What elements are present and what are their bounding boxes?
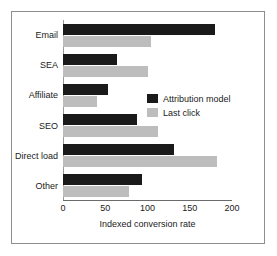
bar-other-last-click [63,186,129,197]
bar-affiliate-last-click [63,96,97,107]
legend-item-last-click: Last click [147,106,243,119]
bar-email-attribution-model [63,24,215,35]
x-axis-tick-labels: 050100150200 [0,203,277,217]
x-tick-50: 50 [100,203,110,213]
y-axis-label-direct-load: Direct load [2,151,58,161]
legend-label: Last click [163,108,200,118]
bar-direct-load-attribution-model [63,144,174,155]
chart-legend: Attribution modelLast click [147,92,243,120]
bar-seo-last-click [63,126,158,137]
legend-swatch-icon-attribution-model [147,94,158,103]
y-axis-label-seo: SEO [2,121,58,131]
bar-seo-attribution-model [63,114,137,125]
y-axis-label-sea: SEA [2,60,58,70]
x-tick-100: 100 [140,203,155,213]
y-axis-label-email: Email [2,30,58,40]
x-tick-0: 0 [60,203,65,213]
bar-affiliate-attribution-model [63,84,108,95]
bar-email-last-click [63,36,151,47]
legend-label: Attribution model [163,94,231,104]
x-axis-title: Indexed conversion rate [63,219,232,229]
y-axis-category-labels: EmailSEAAffiliateSEODirect loadOther [0,20,58,201]
y-axis-label-affiliate: Affiliate [2,90,58,100]
bar-sea-attribution-model [63,54,117,65]
legend-item-attribution-model: Attribution model [147,92,243,105]
legend-swatch-icon-last-click [147,108,158,117]
y-axis-label-other: Other [2,181,58,191]
chart-figure: EmailSEAAffiliateSEODirect loadOther 050… [0,0,277,256]
x-tick-200: 200 [224,203,239,213]
x-tick-150: 150 [182,203,197,213]
bar-sea-last-click [63,66,148,77]
bar-direct-load-last-click [63,156,217,167]
bar-other-attribution-model [63,174,142,185]
